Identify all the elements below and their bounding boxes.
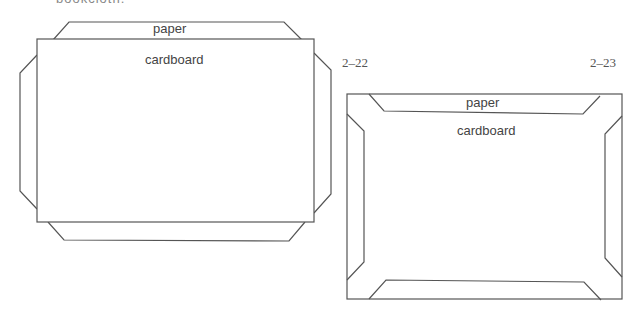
left-turn-in [347,114,364,280]
right-turn-in [605,116,622,277]
left-flap [20,55,37,209]
diagram-canvas [0,0,640,314]
bottom-paper-flap [48,222,305,241]
right-flap [314,53,331,213]
figure-number-2-22: 2–22 [342,56,368,69]
paper-label-2-22: paper [153,22,186,35]
figure-number-2-23: 2–23 [590,56,616,69]
paper-label-2-23: paper [466,96,499,109]
bottom-turn-in [369,280,601,300]
cardboard-label-2-22: cardboard [145,53,204,66]
cardboard-label-2-23: cardboard [457,124,516,137]
